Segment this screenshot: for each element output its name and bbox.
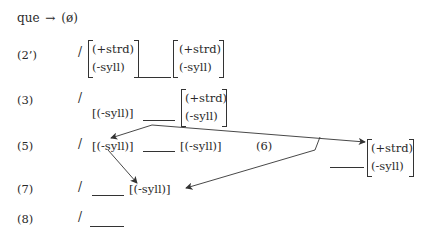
arrow-5-to-7 xyxy=(108,150,137,183)
arrow-3-to-6 xyxy=(152,125,365,142)
derivation-arrows xyxy=(0,0,426,241)
environment-slash-6 xyxy=(315,137,320,150)
arrow-3-to-5 xyxy=(111,125,152,138)
arrow-6-to-7 xyxy=(186,150,315,188)
